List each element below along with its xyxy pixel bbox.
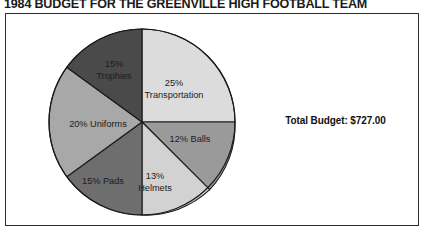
pie-chart: 25% Transportation 12% Balls 13% Helmets… [46, 26, 238, 218]
slice-label-transportation-pct: 25% [165, 78, 183, 88]
slice-label-trophies-name: Trophies [96, 71, 132, 81]
total-budget-label: Total Budget: $727.00 [262, 114, 409, 126]
chart-panel: 25% Transportation 12% Balls 13% Helmets… [5, 13, 419, 226]
pie-chart-svg: 25% Transportation 12% Balls 13% Helmets… [46, 26, 238, 218]
slice-label-helmets-pct: 13% [146, 171, 164, 181]
slice-label-trophies-pct: 15% [105, 59, 123, 69]
pie-chart-figure: 1984 BUDGET FOR THE GREENVILLE HIGH FOOT… [0, 0, 426, 233]
slice-label-pads: 15% Pads [82, 176, 124, 186]
pie-slice-transportation[interactable] [142, 29, 235, 122]
slice-label-balls: 12% Balls [170, 134, 211, 144]
page-title: 1984 BUDGET FOR THE GREENVILLE HIGH FOOT… [4, 0, 395, 12]
slice-label-helmets-name: Helmets [138, 183, 172, 193]
slice-label-transportation-name: Transportation [145, 90, 204, 100]
slice-label-uniforms: 20% Uniforms [69, 119, 127, 129]
